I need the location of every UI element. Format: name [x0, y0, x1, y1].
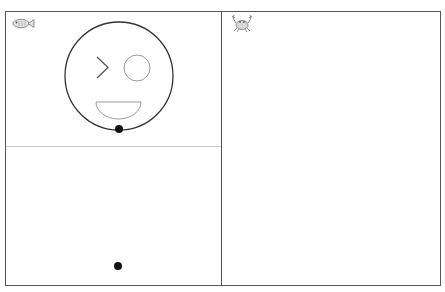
mouth-half-circle — [96, 102, 141, 119]
lower-panel-dot[interactable] — [114, 262, 122, 270]
face-outline — [65, 22, 173, 130]
fish-icon[interactable] — [13, 19, 34, 27]
right-eye-circle — [124, 55, 150, 81]
left-eye-chevron — [97, 57, 108, 78]
drawing-canvas — [0, 0, 445, 292]
face-bottom-dot[interactable] — [115, 125, 123, 133]
crab-icon[interactable] — [232, 15, 252, 32]
